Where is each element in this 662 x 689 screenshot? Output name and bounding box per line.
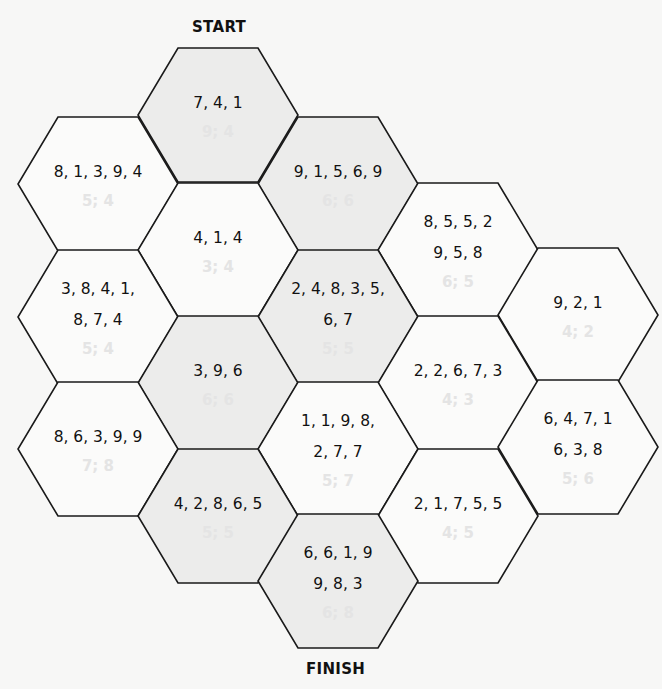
hex-numbers: 2, 4, 8, 3, 5, 6, 7 bbox=[291, 274, 385, 336]
hex-numbers: 2, 2, 6, 7, 3 bbox=[414, 356, 503, 387]
hex-hint: 3; 4 bbox=[202, 256, 234, 278]
hex-numbers: 2, 1, 7, 5, 5 bbox=[414, 489, 503, 520]
hex-numbers: 8, 1, 3, 9, 4 bbox=[54, 157, 143, 188]
hex-hint: 6; 6 bbox=[202, 389, 234, 411]
hex-numbers: 9, 1, 5, 6, 9 bbox=[294, 157, 383, 188]
hex-hint: 5; 6 bbox=[562, 468, 594, 490]
hex-hint: 6; 5 bbox=[442, 271, 474, 293]
hex-hint: 6; 8 bbox=[322, 602, 354, 624]
hex-numbers: 1, 1, 9, 8, 2, 7, 7 bbox=[301, 406, 375, 468]
hex-hint: 4; 5 bbox=[442, 522, 474, 544]
hex-numbers: 6, 4, 7, 1 6, 3, 8 bbox=[543, 404, 612, 466]
hex-cell[interactable]: 6, 6, 1, 9 9, 8, 36; 8 bbox=[258, 514, 418, 648]
hex-numbers: 9, 2, 1 bbox=[553, 288, 602, 319]
hex-hint: 5; 4 bbox=[82, 338, 114, 360]
hex-hint: 5; 7 bbox=[322, 470, 354, 492]
hex-numbers: 7, 4, 1 bbox=[193, 88, 242, 119]
hex-hint: 5; 4 bbox=[82, 190, 114, 212]
hex-hint: 4; 2 bbox=[562, 321, 594, 343]
hex-hint: 5; 5 bbox=[202, 522, 234, 544]
hex-numbers: 8, 5, 5, 2 9, 5, 8 bbox=[423, 207, 492, 269]
hex-numbers: 4, 2, 8, 6, 5 bbox=[174, 489, 263, 520]
hex-numbers: 3, 8, 4, 1, 8, 7, 4 bbox=[61, 274, 135, 336]
hex-numbers: 4, 1, 4 bbox=[193, 223, 242, 254]
hex-hint: 6; 6 bbox=[322, 190, 354, 212]
hex-hint: 4; 3 bbox=[442, 389, 474, 411]
hex-numbers: 3, 9, 6 bbox=[193, 356, 242, 387]
hex-hint: 7; 8 bbox=[82, 455, 114, 477]
hex-hint: 5; 5 bbox=[322, 338, 354, 360]
hex-numbers: 6, 6, 1, 9 9, 8, 3 bbox=[303, 538, 372, 600]
hex-numbers: 8, 6, 3, 9, 9 bbox=[54, 422, 143, 453]
hex-hint: 9; 4 bbox=[202, 121, 234, 143]
